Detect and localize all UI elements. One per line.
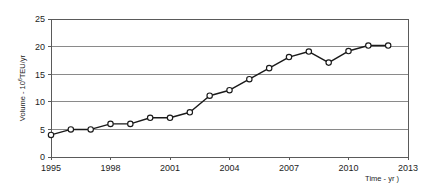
y-axis-title: Volume - 106TEU/yr [17,54,27,121]
x-tick-label-2010: 2010 [338,163,358,173]
data-point-1996 [68,127,73,132]
data-point-2012 [385,43,390,48]
x-tick-label-2007: 2007 [279,163,299,173]
line-chart: 0510152025 1995199820012004200720102013 … [0,0,424,192]
x-tick-label-2001: 2001 [160,163,180,173]
y-axis-title-suffix: TEU/yr [18,54,27,78]
data-point-2009 [326,60,331,65]
y-tick-label-10: 10 [35,97,45,107]
data-point-1998 [108,121,113,126]
data-point-2008 [306,49,311,54]
chart-figure: 0510152025 1995199820012004200720102013 … [0,0,424,192]
data-point-2001 [167,115,172,120]
data-point-2011 [366,43,371,48]
y-axis-title-prefix: Volume - 10 [18,81,27,121]
data-point-1997 [88,127,93,132]
y-tick-label-20: 20 [35,42,45,52]
y-tick-label-25: 25 [35,14,45,24]
x-tick-label-2013: 2013 [398,163,418,173]
data-point-2002 [187,110,192,115]
data-point-2006 [266,65,271,70]
x-tick-label-1995: 1995 [41,163,61,173]
data-point-2010 [346,48,351,53]
x-axis-title: Time - yr ) [365,174,399,183]
x-tick-label-1998: 1998 [100,163,120,173]
x-tick-label-2004: 2004 [219,163,239,173]
y-tick-label-0: 0 [40,152,45,162]
y-tick-label-15: 15 [35,70,45,80]
data-point-2003 [207,93,212,98]
data-point-1999 [128,121,133,126]
data-point-2007 [286,54,291,59]
y-tick-label-5: 5 [40,125,45,135]
data-point-2004 [227,88,232,93]
data-point-2000 [147,115,152,120]
svg-text:Volume - 106TEU/yr: Volume - 106TEU/yr [17,54,27,121]
data-point-1995 [48,132,53,137]
data-point-2005 [247,76,252,81]
